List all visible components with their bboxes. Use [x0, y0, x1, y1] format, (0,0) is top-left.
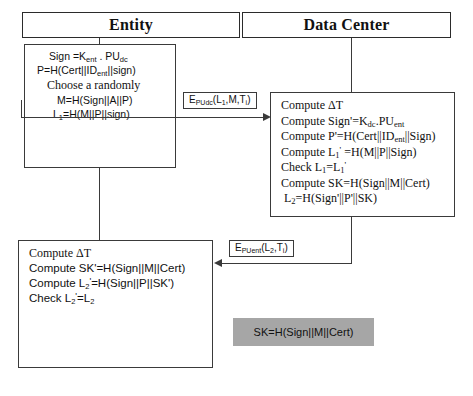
lane-header-entity-label: Entity	[109, 16, 153, 34]
entity-step1-line1-sub1: ent	[86, 55, 96, 64]
message-label-data-center-to-entity: EPUent(L2,Ti)	[229, 240, 294, 257]
entity-step1-line2-post: ||sign)	[107, 64, 135, 76]
dc-step-line4-sup: '	[340, 145, 342, 155]
dc-step-line-4: Compute L1' =H(M||P||Sign)	[281, 146, 446, 158]
entity-step2-line4-mid: =L	[77, 292, 90, 304]
message-arrow-entity-to-data-center	[21, 117, 264, 118]
entity-step1-line1-pre: Sign =K	[49, 50, 86, 62]
dc-step-line2-sub2: ent	[394, 119, 404, 129]
dc-step-line2-mid: .PU	[376, 114, 394, 128]
session-key-label: SK=H(Sign||M||Cert)	[254, 326, 354, 338]
dc-step-line2-sub1: dc	[368, 119, 376, 129]
dc-step-line5-sub1: 1	[322, 165, 326, 175]
entity-step2-line-2: Compute SK'=H(Sign||M||Cert)	[29, 263, 204, 275]
dc-step-line5-sub2: 1	[340, 165, 344, 175]
dc-step-line4-pre: Compute L	[281, 145, 335, 159]
message-arrowhead-left	[214, 259, 222, 267]
dc-step-line-2: Compute Sign'=Kdc.PUent	[281, 115, 446, 127]
session-key-result-box: SK=H(Sign||M||Cert)	[233, 318, 374, 346]
dc-step-line5-mid: =L	[326, 160, 340, 174]
message2-sub2: 2	[270, 247, 274, 254]
dc-step-line4-post: =H(M||P||Sign)	[341, 145, 416, 159]
dc-step-line7-post: =H(Sign'||P'||SK)	[296, 191, 377, 205]
entity-step1-line-3: Choose a randomly	[35, 79, 167, 91]
dc-step-line3-post: ||Sign)	[405, 129, 436, 143]
process-box-data-center-step: Compute ΔT Compute Sign'=Kdc.PUent Compu…	[270, 92, 455, 217]
lane-header-data-center: Data Center	[242, 12, 451, 38]
message1-sub1: PUdc	[196, 99, 213, 106]
message1-sub3: i	[246, 99, 248, 106]
message1-post: (L	[213, 94, 222, 105]
dc-step-line-5: Check L1=L1'	[281, 161, 446, 173]
process-box-entity-step2: Compute ΔT Compute SK'=H(Sign||M||Cert) …	[18, 240, 213, 368]
dc-step-line-6: Compute SK=H(Sign||M||Cert)	[281, 177, 446, 189]
entity-step2-line3-sup: '	[89, 276, 91, 286]
lane-header-data-center-label: Data Center	[303, 16, 389, 34]
dc-step-line-3: Compute P'=H(Cert||IDent||Sign)	[281, 130, 446, 142]
entity-step2-line3-post: =H(Sign||P||SK')	[91, 277, 174, 289]
message2-post: (L	[261, 242, 270, 253]
message-arrow-riser-left	[21, 100, 22, 118]
entity-step1-line1-mid: . PU	[97, 50, 120, 62]
dc-step-line2-pre: Compute Sign'=K	[281, 114, 368, 128]
dc-step-line-7: L2=H(Sign'||P'||SK)	[281, 192, 446, 204]
message1-sub2: 1	[222, 99, 226, 106]
message-label-entity-to-data-center: EPUdc(L1,M,Ti)	[183, 92, 257, 109]
entity-step2-line3-pre: Compute L	[29, 277, 85, 289]
entity-step2-line-3: Compute L2'=H(Sign||P||SK')	[29, 278, 204, 290]
entity-step1-line-1: Sign =Kent . PUdc	[35, 51, 167, 62]
entity-step1-line-4: M=H(Sign||A||P)	[35, 95, 167, 106]
dc-step-line5-pre: Check L	[281, 160, 322, 174]
entity-step2-line4-sup: '	[75, 291, 77, 301]
entity-step1-line2-pre: P=H(Cert||ID	[37, 64, 97, 76]
message2-pre: E	[235, 242, 242, 253]
entity-step2-line4-sub2: 2	[90, 297, 94, 306]
message1-post2: ,M,T	[226, 94, 246, 105]
process-box-entity-step1: Sign =Kent . PUdc P=H(Cert||IDent||sign)…	[24, 44, 176, 168]
entity-step2-line-4: Check L2'=L2	[29, 293, 204, 305]
dc-step-line-1: Compute ΔT	[281, 99, 446, 111]
message2-sub1: PUent	[242, 247, 261, 254]
dc-step-line4-sub1: 1	[335, 150, 339, 160]
dc-step-line5-sup: '	[345, 160, 347, 170]
entity-step1-line-2: P=H(Cert||IDent||sign)	[35, 65, 167, 76]
lifeline-entity-middle	[99, 168, 100, 241]
lane-header-entity: Entity	[22, 12, 240, 38]
message-arrow-data-center-to-entity	[222, 263, 352, 264]
message2-post2: ,T	[274, 242, 283, 253]
message2-post3: )	[284, 242, 287, 253]
lifeline-data-center-bottom	[351, 217, 352, 264]
lifeline-data-center-top	[351, 38, 352, 93]
entity-step2-line-1: Compute ΔT	[29, 247, 204, 259]
entity-step1-line2-sub1: ent	[97, 69, 107, 78]
message1-post3: )	[247, 94, 250, 105]
dc-step-line3-sub1: ent	[394, 134, 404, 144]
dc-step-line7-sub1: 2	[291, 196, 295, 206]
entity-step2-line4-pre: Check L	[29, 292, 71, 304]
dc-step-line3-pre: Compute P'=H(Cert||ID	[281, 129, 394, 143]
entity-step1-line1-sub2: dc	[120, 55, 128, 64]
protocol-sequence-diagram: Entity Data Center Sign =Kent . PUdc P=H…	[0, 0, 473, 396]
message1-pre: E	[189, 94, 196, 105]
